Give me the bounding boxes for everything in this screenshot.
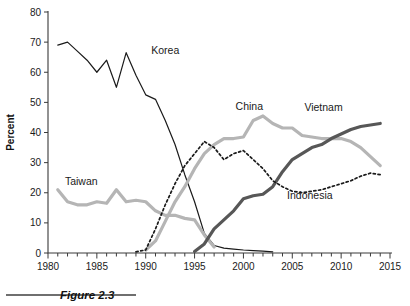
series-label-taiwan: Taiwan — [65, 175, 98, 187]
y-axis-tick-label: 0 — [35, 248, 41, 259]
figure-caption-text: Figure 2.3 — [60, 289, 114, 301]
series-label-indonesia: Indonesia — [287, 189, 333, 201]
y-axis-tick-label: 10 — [30, 217, 42, 228]
y-axis-tick-label: 30 — [30, 157, 42, 168]
series-line-indonesia — [136, 142, 380, 252]
figure-container: 0102030405060708019801985199019952000200… — [0, 0, 410, 306]
series-label-china: China — [236, 100, 264, 112]
y-axis-tick-label: 70 — [30, 37, 42, 48]
x-axis-tick-label: 1985 — [86, 261, 109, 272]
line-chart: 0102030405060708019801985199019952000200… — [0, 0, 410, 306]
chart-axes — [48, 11, 392, 253]
y-axis-title: Percent — [5, 113, 16, 150]
x-axis-tick-label: 1990 — [135, 261, 158, 272]
series-label-korea: Korea — [151, 44, 179, 56]
x-axis-tick-label: 1995 — [183, 261, 206, 272]
x-axis-tick-label: 2005 — [281, 261, 304, 272]
y-axis-tick-label: 50 — [30, 97, 42, 108]
series-line-taiwan — [58, 190, 214, 247]
y-axis-tick-label: 60 — [30, 67, 42, 78]
series-line-china — [146, 116, 381, 250]
x-axis-tick-label: 1980 — [37, 261, 60, 272]
x-axis-tick-label: 2010 — [330, 261, 353, 272]
y-axis-tick-label: 20 — [30, 187, 42, 198]
x-axis-tick-label: 2000 — [232, 261, 255, 272]
y-axis-tick-label: 80 — [30, 7, 42, 18]
y-axis-tick-label: 40 — [30, 127, 42, 138]
series-label-vietnam: Vietnam — [304, 101, 343, 113]
x-axis-tick-label: 2015 — [379, 261, 402, 272]
